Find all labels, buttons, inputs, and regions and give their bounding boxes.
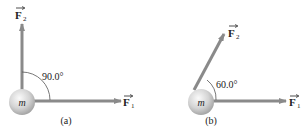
force1-label: F 1 — [289, 95, 301, 111]
panel-caption: (b) — [205, 115, 217, 127]
svg-text:F: F — [123, 96, 130, 108]
mass-label: m — [197, 97, 204, 108]
svg-text:F: F — [228, 27, 235, 39]
panel-a: m 90.0° F 2 F 1 (a) — [9, 7, 135, 128]
angle-label: 60.0° — [216, 79, 238, 90]
force-diagram: m 90.0° F 2 F 1 (a) m 60.0° — [0, 0, 303, 132]
force1-label: F 1 — [123, 95, 135, 111]
svg-text:F: F — [15, 9, 22, 21]
svg-text:1: 1 — [297, 102, 301, 110]
force2-label: F 2 — [15, 7, 27, 24]
force2-label: F 2 — [228, 25, 240, 42]
svg-text:F: F — [289, 96, 296, 108]
svg-text:2: 2 — [23, 15, 27, 23]
angle-label: 90.0° — [42, 71, 64, 82]
mass-label: m — [18, 97, 25, 108]
svg-text:2: 2 — [236, 33, 240, 41]
panel-caption: (a) — [60, 115, 71, 127]
panel-b: m 60.0° F 2 F 1 (b) — [188, 25, 301, 128]
svg-text:1: 1 — [131, 102, 135, 110]
